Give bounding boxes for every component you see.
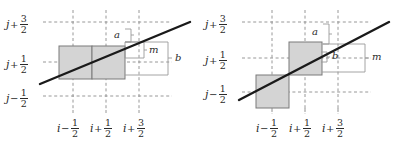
steep-slope-panel: j+32 j+12 j−12 i−12 i+12 i+32 a b m [199,0,398,143]
y-tick-label-j-minus-1-2: j−12 [205,84,227,105]
y-tick-label-j-plus-3-2: j+32 [205,14,227,35]
bracket-label-m: m [149,45,158,55]
bracket-label-b: b [332,51,338,61]
bracket-a [323,24,332,44]
bracket-label-m: m [372,52,381,62]
bracket-b [162,42,172,75]
x-tick-label-i-plus-1-2: i+12 [90,118,112,139]
x-tick-label-i-minus-1-2: i−12 [57,118,79,139]
bracket-a [125,29,134,42]
y-tick-label-j-plus-3-2: j+32 [6,14,28,35]
x-tick-label-i-plus-3-2: i+32 [322,118,344,139]
pixel-box-lower-left [256,75,289,108]
y-tick-label-j-minus-1-2: j−12 [6,88,28,109]
bracket-label-a: a [114,30,120,40]
x-tick-label-i-minus-1-2: i−12 [256,118,278,139]
x-tick-label-i-plus-1-2: i+12 [289,118,311,139]
x-tick-marks [73,110,139,114]
x-tick-marks [272,108,338,114]
bracket-label-a: a [312,27,318,37]
figure-root: j+32 j+12 j−12 i−12 i+12 i+32 a m b [0,0,398,143]
y-tick-label-j-plus-1-2: j+12 [205,50,227,71]
shallow-slope-panel: j+32 j+12 j−12 i−12 i+12 i+32 a m b [0,0,199,143]
y-tick-label-j-plus-1-2: j+12 [6,54,28,75]
bracket-label-b: b [175,53,181,63]
x-tick-label-i-plus-3-2: i+32 [123,118,145,139]
